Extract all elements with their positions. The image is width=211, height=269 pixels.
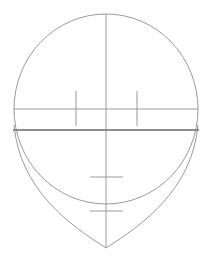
face-proportion-diagram xyxy=(0,0,211,269)
diagram-svg xyxy=(0,0,211,269)
